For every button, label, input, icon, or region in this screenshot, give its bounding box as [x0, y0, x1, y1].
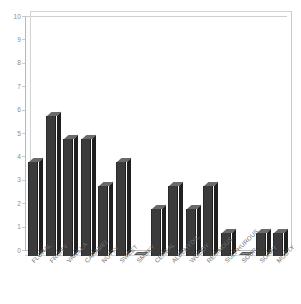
- x-axis-label-smoky: SMOKY: [135, 243, 156, 264]
- bar-chart: 109876543210 FLORALFRUITYVANILLACARAMELN…: [0, 0, 301, 304]
- x-axis-label-soapy: SOAPY: [258, 243, 279, 264]
- x-axis-label-musty: MUSTY: [275, 243, 296, 264]
- x-axis-label-sweet: SWEET: [118, 243, 139, 264]
- x-axis-category-labels: FLORALFRUITYVANILLACARAMELNUTTYSWEETSMOK…: [0, 0, 301, 304]
